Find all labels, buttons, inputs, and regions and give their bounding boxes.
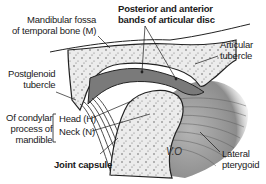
label-line: Articular (220, 39, 253, 50)
label-condylar-process: Of condylar process of mandible (6, 112, 52, 145)
label-line: Of condylar (6, 112, 52, 123)
label-line: bands of articular disc (118, 14, 215, 25)
label-line: of temporal bone (M) (12, 25, 96, 36)
label-articular-tubercle: Articular tubercle (220, 39, 253, 61)
label-articular-disc-bands: Posterior and anterior bands of articula… (118, 3, 215, 25)
label-line: mandible (6, 134, 52, 145)
label-line: process of (6, 123, 52, 134)
label-line: pterygoid (222, 159, 259, 170)
label-neck: Neck (N) (59, 126, 95, 137)
label-postglenoid-tubercle: Postglenoid tubercle (8, 68, 55, 90)
label-line: tubercle (220, 50, 253, 61)
label-mandibular-fossa: Mandibular fossa of temporal bone (M) (12, 14, 96, 36)
label-lateral-pterygoid: Lateral pterygoid (222, 148, 259, 170)
condylar-bracket (53, 114, 56, 142)
label-line: Mandibular fossa (12, 14, 96, 25)
label-head: Head (H) (59, 113, 96, 124)
label-line: Posterior and anterior (118, 3, 215, 14)
label-line: Lateral (222, 148, 259, 159)
label-joint-capsule: Joint capsule (54, 159, 112, 170)
tmj-diagram: Mandibular fossa of temporal bone (M) Po… (0, 0, 266, 184)
label-line: Postglenoid (8, 68, 55, 79)
artist-signature: V.O (166, 146, 182, 157)
label-line: tubercle (8, 79, 55, 90)
